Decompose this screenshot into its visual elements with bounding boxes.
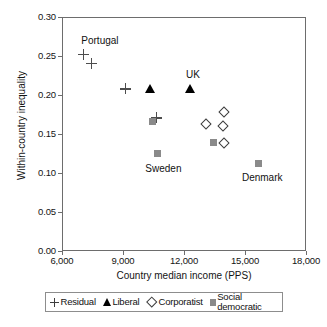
point-annotation: Denmark: [242, 172, 283, 183]
data-point-triangle: [145, 84, 155, 93]
legend-entry-plus: Residual: [50, 297, 96, 307]
y-tick-label: 0.20: [0, 90, 56, 100]
x-tick-mark: [245, 251, 246, 255]
data-point-plus: [86, 58, 97, 69]
data-point-diamond: [217, 120, 228, 131]
legend-square-icon: [210, 299, 216, 306]
x-tick-label: 9,000: [88, 256, 158, 266]
legend-entry-square: Social democratic: [210, 292, 278, 312]
point-annotation: Sweden: [145, 163, 181, 174]
data-point-diamond: [201, 118, 212, 129]
x-tick-label: 6,000: [27, 256, 97, 266]
legend-plus-icon: [50, 298, 59, 307]
scatter-chart-figure: 0.000.050.100.150.200.250.30 6,0009,0001…: [0, 0, 327, 327]
data-point-diamond: [218, 106, 229, 117]
y-tick-label: 0.10: [0, 168, 56, 178]
x-axis-title: Country median income (PPS): [62, 270, 306, 281]
x-tick-label: 12,000: [149, 256, 219, 266]
data-point-square: [210, 139, 217, 146]
y-axis-title: Within-country inequality: [16, 41, 27, 211]
y-tick-label: 0.00: [0, 246, 56, 256]
y-tick-label: 0.30: [0, 12, 56, 22]
y-tick-label: 0.15: [0, 129, 56, 139]
data-point-triangle: [185, 84, 195, 93]
legend-label: Social democratic: [217, 292, 278, 312]
legend-entry-triangle: Liberal: [103, 297, 140, 307]
plot-area: PortugalUKSwedenDenmark: [62, 17, 306, 251]
point-annotation: UK: [186, 69, 200, 80]
data-point-square: [255, 160, 262, 167]
data-point-square: [149, 118, 156, 125]
y-tick-label: 0.05: [0, 207, 56, 217]
x-tick-mark: [184, 251, 185, 255]
legend-entry-diamond: Corporatist: [147, 297, 203, 307]
x-tick-mark: [62, 251, 63, 255]
legend-label: Liberal: [112, 297, 139, 307]
x-tick-label: 18,000: [271, 256, 327, 266]
x-tick-mark: [306, 251, 307, 255]
y-tick-label: 0.25: [0, 51, 56, 61]
data-point-diamond: [218, 137, 229, 148]
legend-label: Corporatist: [159, 297, 203, 307]
data-point-square: [154, 150, 161, 157]
legend-diamond-icon: [146, 297, 157, 308]
x-tick-label: 15,000: [210, 256, 280, 266]
legend-label: Residual: [61, 297, 96, 307]
x-tick-mark: [123, 251, 124, 255]
chart-legend: ResidualLiberalCorporatistSocial democra…: [45, 292, 283, 312]
data-point-plus: [120, 83, 131, 94]
point-annotation: Portugal: [81, 35, 118, 46]
legend-triangle-icon: [103, 298, 111, 306]
